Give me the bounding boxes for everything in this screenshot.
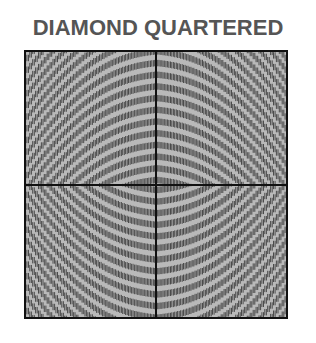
page-title: DIAMOND QUARTERED <box>0 15 316 41</box>
diamond-quartered-figure <box>24 50 288 319</box>
